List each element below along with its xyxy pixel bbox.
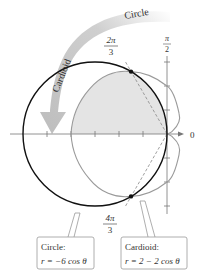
svg-text:3: 3 <box>109 47 114 57</box>
callout-cardioid: Cardioid: r = 2 − 2 cos θ <box>121 201 187 269</box>
shaded-region <box>71 71 167 134</box>
intersection-point-upper <box>129 69 133 73</box>
axis-arrowhead-icon <box>178 132 184 137</box>
svg-text:4π: 4π <box>105 213 115 223</box>
angle-label-pi-over-2: π 2 <box>163 34 171 54</box>
angle-label-4pi-over-3: 4π 3 <box>103 213 117 235</box>
angle-label-zero: 0 <box>190 130 195 140</box>
angle-label-2pi-over-3: 2π 3 <box>104 35 118 57</box>
svg-text:r = −6 cos θ: r = −6 cos θ <box>41 256 87 266</box>
svg-text:2: 2 <box>165 45 169 54</box>
intersection-point-lower <box>129 194 133 198</box>
polar-diagram: Circle Cardioid π 2 0 2π 3 4π 3 Circle: … <box>0 0 208 274</box>
svg-text:3: 3 <box>108 225 113 235</box>
callout-circle: Circle: r = −6 cos θ <box>37 213 94 269</box>
svg-text:Cardioid:: Cardioid: <box>125 242 159 252</box>
svg-text:r = 2 − 2 cos θ: r = 2 − 2 cos θ <box>125 256 180 266</box>
svg-text:Circle:: Circle: <box>41 242 66 252</box>
svg-text:π: π <box>165 34 170 43</box>
svg-text:2π: 2π <box>106 35 116 45</box>
